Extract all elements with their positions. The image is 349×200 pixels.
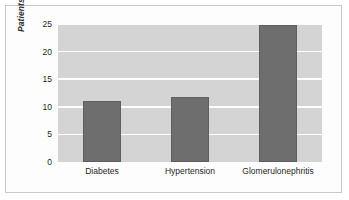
x-axis-tick-label: Hypertension [146,166,234,176]
y-axis-tick-label: 5 [10,130,52,139]
figure: Patients with end stage renal failure (%… [0,0,349,200]
y-axis-tick-label: 10 [10,102,52,111]
bar [171,97,209,162]
y-axis-tick-label: 20 [10,47,52,56]
y-axis-tick-label: 0 [10,158,52,167]
bar [83,101,121,162]
x-axis-tick-label: Glomerulonephritis [234,166,322,176]
bar [259,25,297,162]
x-axis-tick-label: Diabetes [58,166,146,176]
y-axis-tick-label: 15 [10,75,52,84]
y-axis-tick-label: 25 [10,20,52,29]
